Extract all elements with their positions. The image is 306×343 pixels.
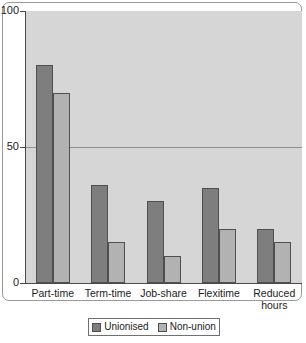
y-tick-label-50: 50 [7,141,19,152]
category-label-term-time: Term-time [80,287,135,299]
y-tick-label-100: 100 [1,5,19,16]
legend-entry-unionised: Unionised [92,322,148,332]
y-tick-100 [20,11,25,12]
y-tick-label-0: 0 [13,277,19,288]
x-axis-line [25,283,302,284]
bar-non-union-flexitime [219,229,236,283]
y-tick-0 [20,283,25,284]
legend-label-unionised: Unionised [104,322,148,332]
legend-entry-non-union: Non-union [158,322,216,332]
category-label-part-time: Part-time [25,287,80,299]
legend-label-non-union: Non-union [170,322,216,332]
legend-swatch-non-union-icon [158,323,167,332]
y-axis-line [25,11,26,284]
bar-non-union-job-share [164,256,181,283]
plot-inner [25,11,302,283]
category-label-flexitime: Flexitime [191,287,246,299]
bar-chart-figure: 050100 Part-timeTerm-timeJob-shareFlexit… [0,0,306,343]
legend-swatch-unionised-icon [92,323,101,332]
bar-non-union-reduced-hours [274,242,291,283]
plot-area [25,11,302,283]
y-tick-50 [20,147,25,148]
category-label-job-share: Job-share [136,287,191,299]
category-label-reduced-hours: Reduced hours [247,287,302,311]
bar-non-union-term-time [108,242,125,283]
legend: Unionised Non-union [88,318,220,336]
bar-non-union-part-time [53,93,70,283]
bar-unionised-reduced-hours [257,229,274,283]
bar-unionised-term-time [91,185,108,283]
bar-unionised-job-share [147,201,164,283]
bar-unionised-flexitime [202,188,219,283]
bar-unionised-part-time [36,65,53,283]
